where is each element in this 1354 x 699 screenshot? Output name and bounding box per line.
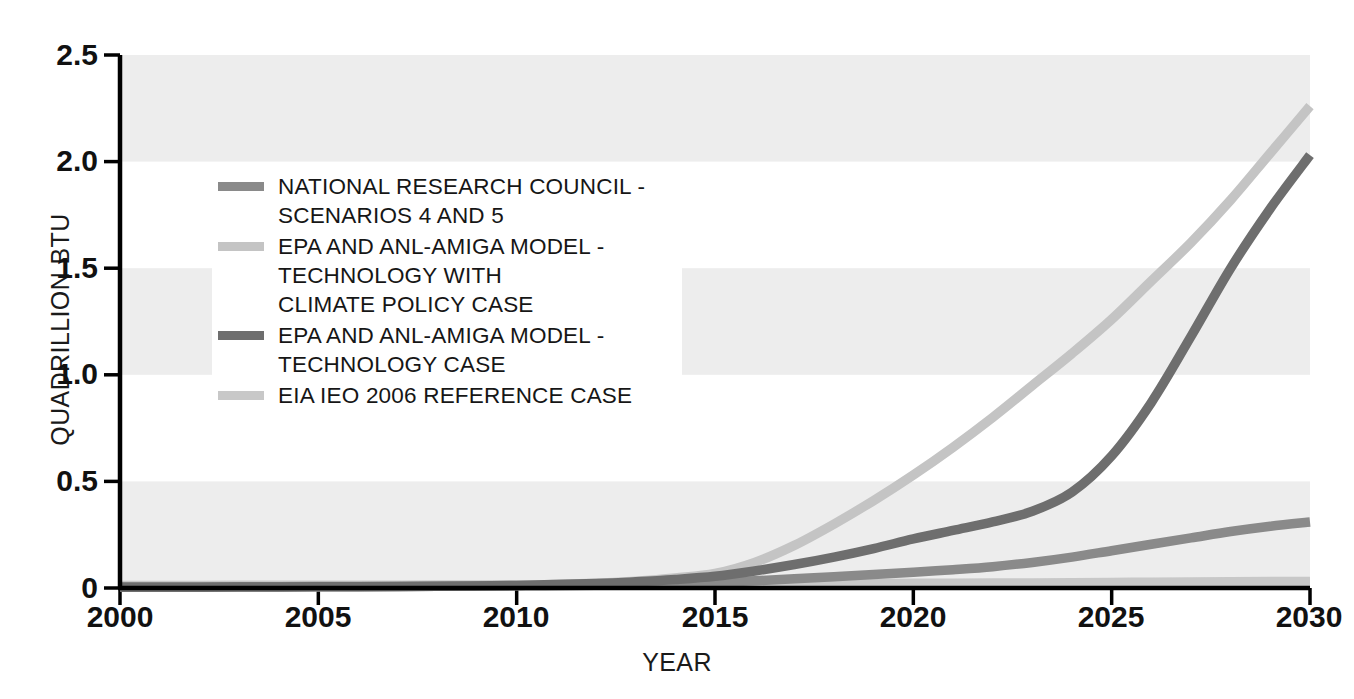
legend-item-0[interactable]: NATIONAL RESEARCH COUNCIL - SCENARIOS 4 … [218,172,678,230]
legend-swatch-icon-1 [218,242,264,251]
legend-label-1: EPA AND ANL-AMIGA MODEL - TECHNOLOGY WIT… [278,232,604,319]
chart-figure: QUADRILLION BTU YEAR 0 0.5 1.0 1.5 2.0 2… [0,0,1354,699]
legend-item-2[interactable]: EPA AND ANL-AMIGA MODEL - TECHNOLOGY CAS… [218,321,678,379]
legend-label-0: NATIONAL RESEARCH COUNCIL - SCENARIOS 4 … [278,172,645,230]
background-band-2 [120,55,1310,162]
legend-label-3: EIA IEO 2006 REFERENCE CASE [278,381,632,410]
legend-swatch-icon-2 [218,331,264,340]
legend-item-1[interactable]: EPA AND ANL-AMIGA MODEL - TECHNOLOGY WIT… [218,232,678,319]
legend-swatch-icon-0 [218,182,264,191]
legend-item-3[interactable]: EIA IEO 2006 REFERENCE CASE [218,381,678,410]
legend-swatch-icon-3 [218,391,264,400]
legend-label-2: EPA AND ANL-AMIGA MODEL - TECHNOLOGY CAS… [278,321,604,379]
chart-legend: NATIONAL RESEARCH COUNCIL - SCENARIOS 4 … [218,172,678,412]
